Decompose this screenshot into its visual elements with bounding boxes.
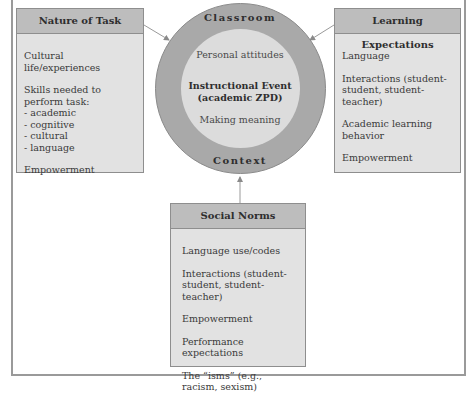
center-instructional-event: Instructional Event xyxy=(170,80,310,92)
list-item: - academic xyxy=(24,107,136,119)
center-making-meaning: Making meaning xyxy=(170,114,310,125)
list-item: Performance expectations xyxy=(182,336,298,359)
list-item: - cultural xyxy=(24,130,136,142)
arrow-from-nature-of-task xyxy=(144,25,169,40)
list-item: Academic learning behavior xyxy=(342,118,453,141)
ring-label-context: Context xyxy=(190,155,290,166)
list-item: Skills needed to perform task: xyxy=(24,84,136,107)
social-norms-box: Social Norms Language use/codes Interact… xyxy=(170,203,306,367)
arrow-from-learning-expectations xyxy=(310,25,334,40)
list-item: Empowerment xyxy=(342,152,453,164)
list-item: Language use/codes xyxy=(182,245,298,257)
nature-of-task-title: Nature of Task xyxy=(17,9,143,34)
list-item: Interactions (student-student, student-t… xyxy=(182,268,298,303)
list-item: The “isms” (e.g., racism, sexism) xyxy=(182,370,298,393)
list-item: - language xyxy=(24,142,136,154)
learning-expectations-box: Learning Expectations Language Interacti… xyxy=(334,8,461,173)
learning-expectations-title: Learning Expectations xyxy=(335,9,460,34)
list-item: Empowerment xyxy=(182,313,298,325)
ring-label-classroom: Classroom xyxy=(190,12,290,23)
list-item: - cognitive xyxy=(24,119,136,131)
center-personal-attitudes: Personal attitudes xyxy=(170,49,310,60)
nature-of-task-box: Nature of Task Cultural life/experiences… xyxy=(16,8,144,173)
social-norms-title: Social Norms xyxy=(171,204,305,229)
list-item: Empowerment xyxy=(24,164,136,176)
center-academic-zpd: (academic ZPD) xyxy=(170,92,310,104)
list-item: Interactions (student-student, student-t… xyxy=(342,73,453,108)
list-item: Cultural life/experiences xyxy=(24,50,136,73)
